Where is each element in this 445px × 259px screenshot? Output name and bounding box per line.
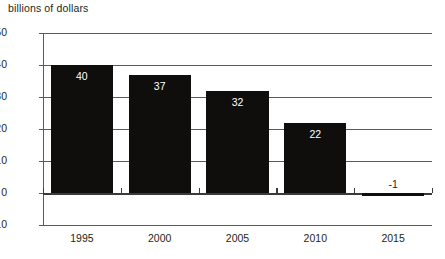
bar-chart: billions of dollars 50403020100-10 40373… (0, 0, 445, 259)
x-axis-tick-mark (199, 188, 200, 193)
x-axis-tick-label: 1995 (43, 232, 121, 244)
y-axis-tick-label: 0 (1, 186, 7, 198)
gridline (43, 225, 432, 226)
x-axis-tick-label: 2015 (354, 232, 432, 244)
bar-value-label: 22 (284, 128, 346, 140)
x-axis-tick-mark (354, 188, 355, 193)
x-axis-tick-mark (121, 188, 122, 193)
y-axis-tick-label: 30 (0, 90, 7, 102)
bar-value-label: 37 (129, 80, 191, 92)
x-axis-tick-label: 2010 (276, 232, 354, 244)
y-axis-tick-label: 20 (0, 122, 7, 134)
x-axis-tick-mark (276, 188, 277, 193)
y-axis-tick-label: 10 (0, 154, 7, 166)
bar (362, 193, 424, 196)
bar-value-label: -1 (362, 178, 424, 190)
bar-value-label: 32 (206, 96, 268, 108)
x-axis-tick-label: 2000 (121, 232, 199, 244)
bar (51, 65, 113, 193)
x-axis-tick-mark (432, 188, 433, 193)
y-axis-tick-label: 40 (0, 58, 7, 70)
x-axis-tick-label: 2005 (199, 232, 277, 244)
y-axis-tick-label: -10 (0, 218, 7, 230)
bar-value-label: 40 (51, 70, 113, 82)
y-axis-tick-label: 50 (0, 26, 7, 38)
gridline (43, 33, 432, 34)
y-axis-title: billions of dollars (8, 2, 88, 14)
x-axis-tick-mark (43, 188, 44, 193)
plot-area: 40373222-1 (43, 33, 432, 225)
bar (129, 75, 191, 193)
